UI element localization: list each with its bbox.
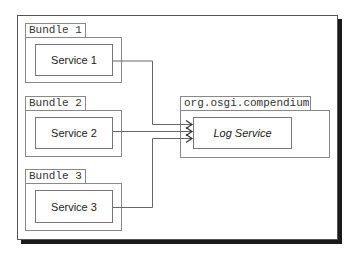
connector-service-1: [113, 61, 191, 125]
connector-lines: [0, 0, 354, 255]
connector-service-3: [113, 139, 191, 208]
